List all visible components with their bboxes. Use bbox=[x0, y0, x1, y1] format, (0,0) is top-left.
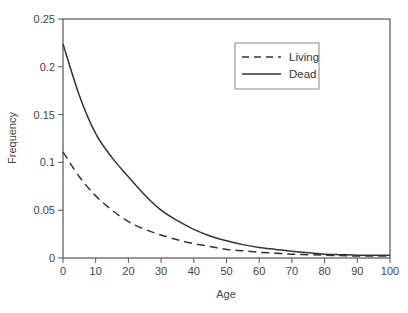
y-tick-label: 0.2 bbox=[40, 61, 55, 73]
legend-box bbox=[235, 43, 319, 89]
x-tick-label: 90 bbox=[351, 265, 363, 277]
y-tick-label: 0.15 bbox=[34, 109, 55, 121]
legend: Living Dead bbox=[235, 43, 319, 89]
x-tick-label: 30 bbox=[155, 265, 167, 277]
y-axis-ticks: 00.050.10.150.20.25 bbox=[34, 13, 63, 264]
plot-border bbox=[63, 19, 390, 258]
y-tick-label: 0.05 bbox=[34, 204, 55, 216]
x-tick-label: 70 bbox=[286, 265, 298, 277]
y-axis-label: Frequency bbox=[6, 112, 18, 164]
y-tick-label: 0.25 bbox=[34, 13, 55, 25]
x-tick-label: 60 bbox=[253, 265, 265, 277]
plot-frame bbox=[63, 19, 390, 258]
x-axis-label: Age bbox=[216, 288, 236, 300]
x-tick-label: 50 bbox=[220, 265, 232, 277]
data-series bbox=[63, 44, 390, 256]
y-tick-label: 0 bbox=[49, 252, 55, 264]
x-tick-label: 40 bbox=[188, 265, 200, 277]
series-line-dead bbox=[63, 44, 390, 255]
x-tick-label: 10 bbox=[90, 265, 102, 277]
x-tick-label: 20 bbox=[122, 265, 134, 277]
legend-living-label: Living bbox=[289, 51, 319, 63]
legend-dead-label: Dead bbox=[289, 68, 317, 80]
x-axis-ticks: 0102030405060708090100 bbox=[60, 258, 399, 277]
x-tick-label: 0 bbox=[60, 265, 66, 277]
y-tick-label: 0.1 bbox=[40, 156, 55, 168]
x-tick-label: 80 bbox=[318, 265, 330, 277]
line-chart: 0102030405060708090100 00.050.10.150.20.… bbox=[0, 0, 408, 313]
x-tick-label: 100 bbox=[381, 265, 399, 277]
